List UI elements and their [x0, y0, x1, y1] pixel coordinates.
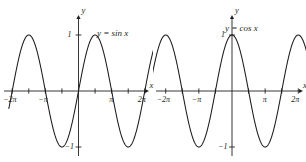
- sine-x-tick-label-neg2pi: −2π: [3, 96, 16, 104]
- sine-x-tick-label-negpi: −π: [38, 96, 47, 104]
- cosine-y-tick-label-neg1: −1: [218, 143, 227, 151]
- cosine-y-axis-label: y: [235, 6, 239, 15]
- cosine-graph-panel: y x 1 −1 −2π −π π 2π y = cos x: [153, 0, 306, 162]
- sine-equation-label: y = sin x: [97, 29, 128, 38]
- sine-y-tick-label-1: 1: [68, 31, 72, 39]
- cosine-x-tick-label-2pi: 2π: [291, 96, 299, 104]
- cosine-x-axis-label: x: [303, 81, 306, 90]
- sine-graph-panel: y x 1 −1 −2π −π π 2π y = sin x: [0, 0, 153, 162]
- cosine-x-tick-label-negpi: −π: [192, 96, 201, 104]
- cosine-x-tick-label-pi: π: [263, 96, 267, 104]
- sine-x-tick-label-2pi: 2π: [138, 96, 146, 104]
- sine-x-tick-label-pi: π: [109, 96, 113, 104]
- cosine-equation-label: y = cos x: [225, 24, 258, 33]
- sine-y-axis-label: y: [82, 6, 86, 15]
- trig-graphs-figure: y x 1 −1 −2π −π π 2π y = sin x y x 1 −1 …: [0, 0, 306, 162]
- sine-y-tick-label-neg1: −1: [65, 143, 74, 151]
- cosine-x-tick-label-neg2pi: −2π: [157, 96, 170, 104]
- sine-plot-svg: [0, 0, 153, 162]
